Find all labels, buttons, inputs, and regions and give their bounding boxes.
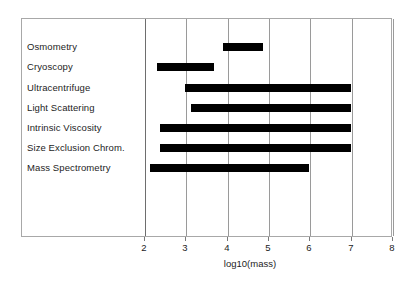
tick-label-6: 6 [299,242,319,254]
category-label-cryoscopy: Cryoscopy [27,61,73,72]
category-label-mass-spectrometry: Mass Spectrometry [27,162,111,173]
tick-mark-2 [144,237,145,241]
tick-label-7: 7 [341,242,361,254]
mass-range-chart: Osmometry Cryoscopy Ultracentrifuge Ligh… [0,0,412,285]
category-labels: Osmometry Cryoscopy Ultracentrifuge Ligh… [0,18,412,237]
x-axis-ticks: 2 3 4 5 6 7 8 [0,237,412,259]
tick-mark-5 [268,237,269,241]
tick-label-4: 4 [217,242,237,254]
tick-mark-4 [227,237,228,241]
tick-mark-3 [185,237,186,241]
x-axis-title: log10(mass) [0,258,412,270]
category-label-osmometry: Osmometry [27,41,77,52]
tick-mark-6 [309,237,310,241]
x-axis-title-text: log10(mass) [224,258,276,269]
category-label-intrinsic-viscosity: Intrinsic Viscosity [27,122,102,133]
tick-mark-7 [351,237,352,241]
tick-label-2: 2 [134,242,154,254]
category-label-light-scattering: Light Scattering [27,102,95,113]
tick-mark-8 [392,237,393,241]
tick-label-5: 5 [258,242,278,254]
tick-label-3: 3 [175,242,195,254]
category-label-ultracentrifuge: Ultracentrifuge [27,82,90,93]
tick-label-8: 8 [382,242,402,254]
category-label-size-exclusion-chrom: Size Exclusion Chrom. [27,142,125,153]
